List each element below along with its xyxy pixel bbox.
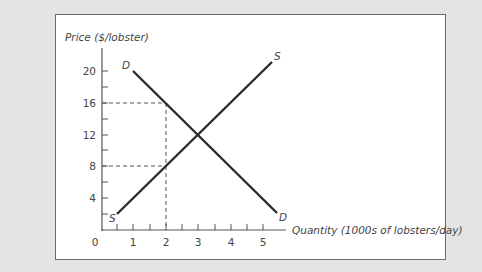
supply-label-top: S xyxy=(274,50,281,62)
demand-label-bottom: D xyxy=(279,211,287,223)
y-tick-label: 16 xyxy=(83,97,97,109)
demand-label-top: D xyxy=(122,59,130,71)
x-tick-label: 2 xyxy=(163,236,170,248)
supply-curve xyxy=(117,62,272,214)
y-tick-label: 20 xyxy=(83,65,96,77)
supply-label-bottom: S xyxy=(109,212,116,224)
dashed-guides xyxy=(102,103,166,230)
y-tick-label: 8 xyxy=(89,160,96,172)
chart-svg: D D S S Price ($/lobster) Quantity (1000… xyxy=(0,0,482,272)
y-tick-label: 12 xyxy=(83,129,96,141)
y-axis-ticks xyxy=(102,71,108,214)
x-axis-title: Quantity (1000s of lobsters/day) xyxy=(292,224,463,236)
x-axis-ticks xyxy=(117,224,263,230)
x-tick-label: 5 xyxy=(260,236,267,248)
origin-label: 0 xyxy=(92,236,99,248)
x-tick-label: 1 xyxy=(130,236,137,248)
x-tick-label: 4 xyxy=(228,236,235,248)
x-tick-label: 3 xyxy=(195,236,202,248)
demand-curve xyxy=(133,71,277,213)
y-tick-label: 4 xyxy=(89,192,96,204)
y-axis-title: Price ($/lobster) xyxy=(65,31,149,43)
